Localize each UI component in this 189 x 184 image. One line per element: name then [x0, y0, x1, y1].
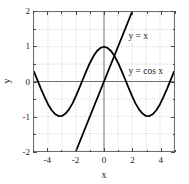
x-tick-major	[47, 148, 48, 152]
x-tick-top	[147, 11, 148, 14]
x-tick-major	[76, 148, 77, 152]
y-tick-right	[171, 11, 175, 12]
x-tick-top	[47, 11, 48, 15]
y-tick-minor	[33, 134, 36, 135]
x-tick-minor	[90, 150, 91, 153]
curve-label: y = cos x	[128, 67, 163, 77]
y-tick-major	[33, 46, 37, 47]
y-tick-label: 2	[16, 7, 30, 16]
x-tick-top	[76, 11, 77, 15]
y-tick-label: 1	[16, 42, 30, 51]
x-tick-top	[118, 11, 119, 14]
x-axis-label: x	[102, 170, 107, 180]
y-tick-right	[173, 99, 176, 100]
x-tick-minor	[175, 150, 176, 153]
x-tick-top	[161, 11, 162, 15]
y-tick-right	[171, 152, 175, 153]
y-tick-major	[33, 82, 37, 83]
y-tick-label: -1	[16, 112, 30, 121]
x-tick-label: 2	[130, 156, 135, 165]
curve-label: y = x	[128, 32, 148, 42]
x-tick-minor	[147, 150, 148, 153]
chart-figure: -4-2024-2-1012 y = xy = cos x x y	[0, 0, 189, 184]
x-tick-major	[132, 148, 133, 152]
x-tick-top	[61, 11, 62, 14]
y-tick-right	[171, 46, 175, 47]
y-tick-right	[171, 117, 175, 118]
y-tick-right	[173, 64, 176, 65]
x-tick-major	[161, 148, 162, 152]
x-tick-label: 4	[159, 156, 164, 165]
x-tick-top	[104, 11, 105, 15]
x-tick-top	[175, 11, 176, 14]
plot-area	[33, 11, 175, 152]
x-tick-top	[90, 11, 91, 14]
y-tick-label: 0	[16, 77, 30, 86]
y-tick-minor	[33, 29, 36, 30]
y-axis-label: y	[2, 79, 12, 84]
y-tick-right	[171, 82, 175, 83]
x-tick-label: -2	[72, 156, 80, 165]
x-tick-top	[132, 11, 133, 15]
y-tick-label: -2	[16, 148, 30, 157]
x-tick-minor	[118, 150, 119, 153]
x-tick-label: -4	[43, 156, 51, 165]
y-tick-minor	[33, 99, 36, 100]
y-tick-major	[33, 152, 37, 153]
y-tick-right	[173, 134, 176, 135]
y-tick-major	[33, 11, 37, 12]
x-tick-label: 0	[102, 156, 107, 165]
x-tick-major	[104, 148, 105, 152]
y-tick-minor	[33, 64, 36, 65]
y-tick-right	[173, 29, 176, 30]
x-tick-minor	[61, 150, 62, 153]
y-tick-major	[33, 117, 37, 118]
curves-layer	[34, 12, 174, 151]
